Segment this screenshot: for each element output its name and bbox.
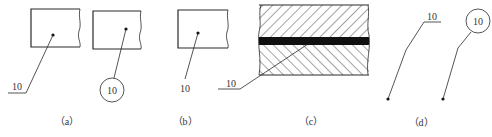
panel-b: 10 （b） (173, 10, 229, 127)
part-a-left: 10 (8, 9, 80, 93)
callout-label: 10 (107, 85, 117, 96)
sectioned-assembly (259, 5, 370, 75)
panel-caption-b: （b） (173, 116, 198, 127)
part-number-callout-figure: 10 10 （a） 10 （b） 10 (0, 0, 492, 137)
panel-d: 10 10 （d） (386, 9, 490, 128)
panel-caption-c: （c） (299, 116, 323, 127)
leader-line (114, 29, 126, 78)
callout-d-underline: 10 (386, 11, 441, 101)
part-a-right: 10 (93, 11, 141, 102)
upper-part-hatch (259, 5, 369, 37)
panel-caption-a: （a） (55, 116, 79, 127)
panel-c: 10 （c） (218, 5, 369, 127)
callout-label: 10 (226, 78, 236, 89)
leader-line (443, 32, 471, 99)
callout-label: 10 (180, 83, 190, 94)
callout-label: 10 (427, 11, 437, 22)
panel-caption-d: （d） (409, 117, 434, 128)
callout-label: 10 (473, 16, 483, 27)
thin-layer (259, 37, 369, 45)
lower-part-hatch (259, 45, 369, 75)
callout-label: 10 (12, 81, 22, 92)
panel-a: 10 10 （a） (8, 9, 141, 127)
leader-line (388, 22, 441, 99)
callout-d-circle: 10 (441, 9, 490, 101)
leader-line (185, 33, 198, 79)
